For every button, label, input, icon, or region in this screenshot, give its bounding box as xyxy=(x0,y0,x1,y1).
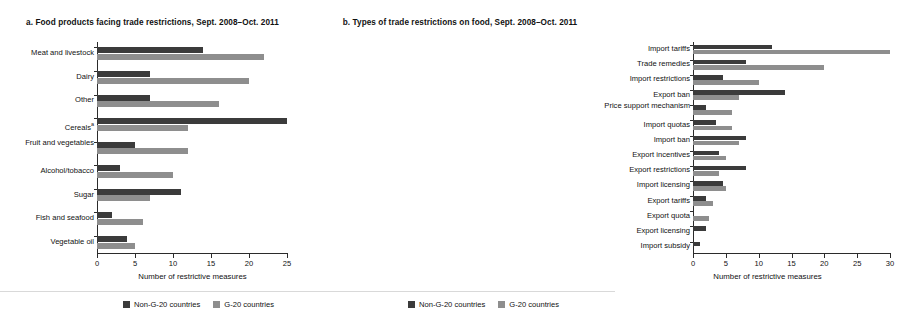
x-tick xyxy=(890,254,891,258)
category-label: Export ban xyxy=(653,91,690,99)
x-tick-label: 10 xyxy=(754,259,762,268)
bar-non-g20 xyxy=(693,181,723,186)
bar-non-g20 xyxy=(97,71,150,77)
x-tick xyxy=(249,254,250,258)
bar-non-g20 xyxy=(693,226,706,231)
bar-g20 xyxy=(693,110,732,115)
panel-a-plot-area: 0510152025 xyxy=(97,42,288,254)
x-tick xyxy=(97,254,98,258)
bar-non-g20 xyxy=(693,166,746,171)
category-label: Export restrictions xyxy=(629,166,690,174)
category-label: Import subsidy xyxy=(641,242,690,250)
x-tick-label: 20 xyxy=(820,259,828,268)
category-label: Fish and seafood xyxy=(36,214,94,222)
category-label: Import ban xyxy=(654,136,690,144)
bar-g20 xyxy=(693,95,739,100)
bar-g20 xyxy=(693,80,759,85)
panel-b-x-axis-title: Number of restrictive measures xyxy=(635,272,899,281)
bar-g20 xyxy=(97,195,150,201)
category-label: Export licensing xyxy=(636,227,690,235)
bar-non-g20 xyxy=(97,47,203,53)
legend-swatch-icon xyxy=(123,301,130,308)
bar-g20 xyxy=(97,101,219,107)
panel-b-legend: Non-G-20 countriesG-20 countries xyxy=(408,300,559,309)
legend-label: Non-G-20 countries xyxy=(419,300,485,309)
bar-non-g20 xyxy=(693,45,772,50)
bar-g20 xyxy=(693,171,719,176)
category-label: Export quota xyxy=(647,212,690,220)
panel-a-x-axis-title: Number of restrictive measures xyxy=(60,272,325,281)
x-tick xyxy=(173,254,174,258)
bar-g20 xyxy=(693,141,739,146)
bar-non-g20 xyxy=(97,165,120,171)
panel-b-plot-area: 051015202530 xyxy=(693,42,891,254)
legend-bar: Non-G-20 countriesG-20 countries Non-G-2… xyxy=(0,291,615,327)
x-tick-label: 5 xyxy=(133,259,137,268)
bar-non-g20 xyxy=(97,189,181,195)
panel-b-title: b. Types of trade restrictions on food, … xyxy=(305,18,615,27)
x-tick xyxy=(792,254,793,258)
bar-g20 xyxy=(693,65,824,70)
x-tick-label: 20 xyxy=(245,259,253,268)
x-tick xyxy=(211,254,212,258)
bar-non-g20 xyxy=(693,105,706,110)
x-tick-label: 0 xyxy=(95,259,99,268)
panel-a-legend: Non-G-20 countriesG-20 countries xyxy=(123,300,274,309)
bar-non-g20 xyxy=(693,242,700,247)
legend-item[interactable]: G-20 countries xyxy=(213,300,274,309)
bar-g20 xyxy=(97,148,188,154)
category-label: Import licensing xyxy=(637,181,690,189)
x-tick-label: 30 xyxy=(886,259,894,268)
category-label: Export incentives xyxy=(632,151,690,159)
category-label: Sugar xyxy=(74,191,94,199)
bar-non-g20 xyxy=(97,95,150,101)
category-label: Trade remedies xyxy=(637,60,690,68)
legend-label: Non-G-20 countries xyxy=(134,300,200,309)
bar-g20 xyxy=(97,78,249,84)
x-tick xyxy=(135,254,136,258)
category-label: Import quotas xyxy=(644,121,690,129)
bar-g20 xyxy=(97,219,143,225)
legend-swatch-icon xyxy=(408,301,415,308)
legend-swatch-icon xyxy=(498,301,505,308)
legend-item[interactable]: Non-G-20 countries xyxy=(408,300,485,309)
legend-item[interactable]: Non-G-20 countries xyxy=(123,300,200,309)
bar-non-g20 xyxy=(693,120,716,125)
x-tick-label: 25 xyxy=(283,259,291,268)
bar-g20 xyxy=(693,186,726,191)
bar-non-g20 xyxy=(97,212,112,218)
panel-a-title: a. Food products facing trade restrictio… xyxy=(0,18,305,27)
legend-item[interactable]: G-20 countries xyxy=(498,300,559,309)
bar-non-g20 xyxy=(693,136,746,141)
panel-a-category-labels: Meat and livestockDairyOtherCerealsaFrui… xyxy=(0,42,94,254)
x-tick-label: 15 xyxy=(787,259,795,268)
bar-g20 xyxy=(693,50,890,55)
bar-g20 xyxy=(97,54,264,60)
bar-g20 xyxy=(693,156,726,161)
x-tick-label: 10 xyxy=(169,259,177,268)
category-label: Cerealsa xyxy=(65,120,94,132)
legend-label: G-20 countries xyxy=(224,300,274,309)
panel-b: b. Types of trade restrictions on food, … xyxy=(305,0,615,292)
panel-b-category-labels: Import tariffsTrade remediesImport restr… xyxy=(600,42,690,254)
category-label: Meat and livestock xyxy=(31,49,94,57)
x-tick xyxy=(759,254,760,258)
bar-g20 xyxy=(693,216,709,221)
x-tick xyxy=(824,254,825,258)
panel-a-x-ticks: 0510152025 xyxy=(97,254,288,258)
category-label: Dairy xyxy=(76,73,94,81)
bar-non-g20 xyxy=(693,196,706,201)
bar-non-g20 xyxy=(693,90,785,95)
bar-non-g20 xyxy=(97,118,287,124)
category-label: Alcohol/tobacco xyxy=(40,167,94,175)
x-tick xyxy=(857,254,858,258)
category-tick xyxy=(690,211,693,212)
bar-non-g20 xyxy=(693,75,723,80)
category-label: Other xyxy=(75,96,94,104)
x-tick xyxy=(693,254,694,258)
category-label: Price support mechanism xyxy=(602,102,690,110)
x-tick xyxy=(726,254,727,258)
category-label: Fruit and vegetables xyxy=(6,139,94,147)
category-label: Import tariffs xyxy=(648,45,690,53)
